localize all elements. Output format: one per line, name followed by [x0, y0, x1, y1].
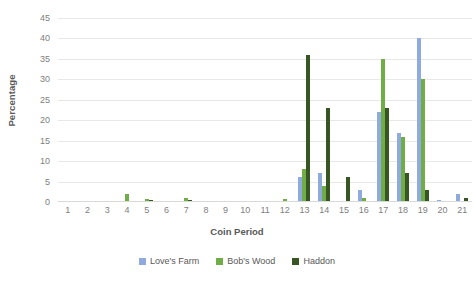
bar[interactable] [346, 177, 350, 202]
bar[interactable] [306, 55, 310, 202]
y-axis-tick: 25 [40, 95, 50, 105]
legend-swatch-icon [216, 258, 223, 265]
bar[interactable] [385, 108, 389, 202]
bar-group [58, 18, 78, 202]
bar[interactable] [405, 173, 409, 202]
bar-group [176, 18, 196, 202]
y-axis-title: Percentage [0, 0, 22, 200]
x-axis-tick: 19 [413, 203, 433, 217]
legend-item[interactable]: Bob's Wood [216, 256, 275, 266]
bars-layer [58, 18, 472, 202]
y-axis-title-label: Percentage [6, 74, 17, 126]
bar-group [117, 18, 137, 202]
x-axis-tick-labels: 123456789101112131415161718192021 [58, 203, 472, 217]
x-axis-tick: 4 [117, 203, 137, 217]
x-axis-tick: 20 [433, 203, 453, 217]
x-axis-title-label: Coin Period [210, 226, 263, 237]
x-axis-line [58, 201, 472, 202]
x-axis-tick: 3 [97, 203, 117, 217]
bar-group [255, 18, 275, 202]
bar-group [157, 18, 177, 202]
x-axis-tick: 11 [255, 203, 275, 217]
legend-swatch-icon [139, 258, 146, 265]
x-axis-tick: 17 [374, 203, 394, 217]
x-axis-tick: 8 [196, 203, 216, 217]
x-axis-tick: 5 [137, 203, 157, 217]
bar-group [413, 18, 433, 202]
bar-group [78, 18, 98, 202]
bar[interactable] [421, 79, 425, 202]
legend-swatch-icon [292, 258, 299, 265]
x-axis-tick: 10 [235, 203, 255, 217]
legend-label: Haddon [303, 256, 335, 266]
legend-label: Love's Farm [150, 256, 199, 266]
bar-group [334, 18, 354, 202]
y-axis-tick: 0 [45, 197, 50, 207]
x-axis-tick: 13 [295, 203, 315, 217]
x-axis-tick: 18 [393, 203, 413, 217]
y-axis-tick: 45 [40, 13, 50, 23]
bar-group [433, 18, 453, 202]
bar[interactable] [326, 108, 330, 202]
legend-item[interactable]: Love's Farm [139, 256, 199, 266]
legend-item[interactable]: Haddon [292, 256, 335, 266]
y-axis-tick: 20 [40, 115, 50, 125]
y-axis-tick: 5 [45, 177, 50, 187]
bar-group [137, 18, 157, 202]
y-axis-tick: 40 [40, 33, 50, 43]
bar-group [452, 18, 472, 202]
x-axis-tick: 15 [334, 203, 354, 217]
plot-area [58, 18, 472, 202]
bar-chart: Percentage 454035302520151050 1234567891… [0, 0, 474, 288]
x-axis-title: Coin Period [0, 226, 474, 237]
bar-group [393, 18, 413, 202]
bar-group [295, 18, 315, 202]
x-axis-tick: 6 [157, 203, 177, 217]
x-axis-tick: 1 [58, 203, 78, 217]
bar-group [97, 18, 117, 202]
y-axis-tick: 10 [40, 156, 50, 166]
y-axis-tick: 15 [40, 136, 50, 146]
x-axis-tick: 7 [176, 203, 196, 217]
x-axis-tick: 14 [314, 203, 334, 217]
bar-group [354, 18, 374, 202]
y-axis-tick: 30 [40, 74, 50, 84]
x-axis-tick: 16 [354, 203, 374, 217]
y-axis-tick: 35 [40, 54, 50, 64]
bar-group [235, 18, 255, 202]
x-axis-tick: 21 [452, 203, 472, 217]
chart-legend: Love's FarmBob's WoodHaddon [0, 256, 474, 266]
bar-group [374, 18, 394, 202]
x-axis-tick: 9 [216, 203, 236, 217]
plot-wrapper: 454035302520151050 [22, 18, 474, 208]
y-axis-tick-labels: 454035302520151050 [22, 18, 54, 202]
x-axis-tick: 12 [275, 203, 295, 217]
bar-group [275, 18, 295, 202]
bar-group [314, 18, 334, 202]
bar-group [196, 18, 216, 202]
x-axis-tick: 2 [78, 203, 98, 217]
bar-group [216, 18, 236, 202]
legend-label: Bob's Wood [227, 256, 275, 266]
